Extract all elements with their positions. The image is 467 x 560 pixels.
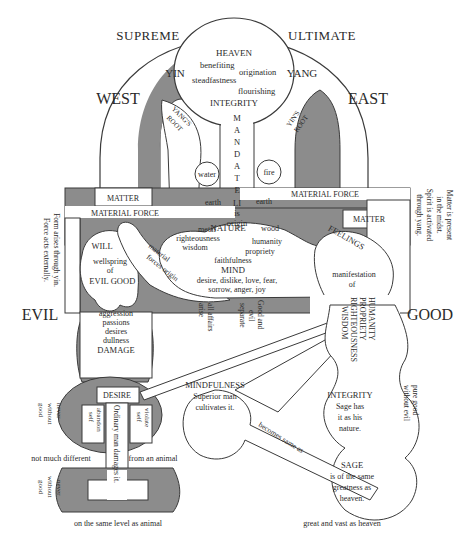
violate-1: violate	[143, 408, 151, 427]
svg-text:N: N	[234, 137, 240, 147]
will-good: GOOD	[111, 276, 136, 286]
from-an-animal: from an animal	[129, 454, 179, 463]
side-note-left-2: Force acts externally.	[42, 218, 51, 282]
will-title: WILL	[91, 241, 112, 251]
svg-text:earth: earth	[205, 198, 221, 207]
great-and-vast: great and vast as heaven	[303, 519, 381, 528]
never-2c: good	[37, 480, 45, 495]
svg-text:earth: earth	[256, 197, 272, 206]
nature-faithfulness: faithfulness	[214, 256, 251, 265]
never-1b: without	[46, 403, 54, 424]
svg-text:water: water	[198, 170, 216, 179]
mind-emotions-2: sorrow, anger, joy	[208, 285, 265, 294]
svg-text:is: is	[234, 208, 240, 218]
svg-text:dullness: dullness	[103, 336, 129, 345]
side-note-right-4: through yang.	[415, 194, 424, 236]
integrity-title: INTEGRITY	[327, 390, 372, 400]
label-yang: YANG	[287, 67, 318, 79]
svg-text:D: D	[234, 149, 240, 159]
good-evil-1: Good and	[256, 300, 265, 330]
will-line2: of	[107, 266, 114, 275]
matter-left: MATTER	[107, 194, 140, 203]
material-force-left: MATERIAL FORCE	[91, 209, 159, 218]
svg-text:A: A	[234, 125, 241, 135]
heaven-steadfastness: steadfastness	[192, 75, 236, 85]
svg-text:wood: wood	[261, 224, 279, 233]
svg-text:PROPRIETY: PROPRIETY	[358, 297, 367, 341]
sage-line3: heaven.	[340, 494, 365, 503]
nature-righteousness: righteousness	[176, 234, 220, 243]
svg-text:A: A	[234, 161, 241, 171]
material-force-right: MATERIAL FORCE	[291, 190, 359, 199]
good-evil-3: separate	[238, 303, 247, 328]
mindfulness-title: MINDFULNESS	[185, 380, 245, 390]
label-west: WEST	[96, 90, 140, 107]
mindfulness-line1: Superior man	[193, 392, 236, 401]
integrity-line2: it as his	[338, 413, 362, 422]
heaven-origination: origination	[239, 67, 277, 77]
mind-emotions-1: desire, dislike, love, fear,	[197, 276, 277, 285]
label-evil: EVIL	[22, 306, 58, 323]
svg-text:T: T	[234, 173, 240, 183]
svg-text:M: M	[233, 113, 241, 123]
mindfulness-line2: cultivates it.	[195, 403, 234, 412]
desire-title: DESIRE	[103, 391, 131, 400]
svg-text:aggression: aggression	[99, 309, 133, 318]
sage-line1: is of the same	[330, 472, 375, 481]
svg-text:desires: desires	[105, 327, 127, 336]
neo-confucian-diagram: SUPREME ULTIMATE WEST EAST EVIL GOOD HEA…	[0, 0, 467, 560]
svg-text:fire: fire	[263, 168, 275, 177]
nature-wisdom: wisdom	[182, 243, 208, 252]
never-2b: without	[46, 476, 54, 497]
same-level-animal: on the same level as animal	[74, 519, 163, 528]
side-note-right-1: Matter is present	[445, 190, 454, 241]
violate-2: self	[135, 412, 143, 423]
will-line1: wellspring	[93, 257, 127, 266]
abandon-2: self	[87, 412, 95, 423]
svg-text:E: E	[234, 185, 239, 195]
label-yin: YIN	[165, 67, 185, 79]
never-1c: good	[37, 403, 45, 418]
all-affairs-2: arise	[197, 303, 206, 318]
heaven-title: HEAVEN	[216, 48, 252, 58]
svg-text:WISDOM: WISDOM	[340, 306, 349, 339]
feelings-manifestation: manifestation	[332, 270, 376, 279]
heaven-flourishing: flourishing	[238, 86, 276, 96]
heaven-integrity: INTEGRITY	[210, 98, 258, 108]
side-note-left-1: Form arises through yin.	[52, 213, 61, 287]
sage-title: SAGE	[341, 460, 363, 470]
nature-title: NATURE	[210, 223, 246, 233]
will-evil: EVIL	[89, 276, 108, 286]
good-evil-2: evil	[247, 310, 256, 321]
label-good: GOOD	[407, 306, 453, 323]
svg-text:HUMANITY: HUMANITY	[367, 297, 376, 341]
side-note-right-2: in the midst.	[435, 196, 444, 233]
pure-good-1: pure good	[411, 385, 420, 415]
ordinary-man: Ordinary man damages it.	[112, 405, 121, 483]
integrity-line3: nature.	[339, 424, 361, 433]
svg-text:RIGHTEOUSNESS: RIGHTEOUSNESS	[349, 297, 358, 362]
label-supreme: SUPREME	[116, 28, 179, 43]
svg-text:DAMAGE: DAMAGE	[97, 345, 134, 355]
nature-humanity: humanity	[252, 237, 282, 246]
label-east: EAST	[348, 90, 388, 107]
svg-text:passions: passions	[102, 318, 129, 327]
never-2a: never	[55, 480, 63, 496]
feelings-of: of	[349, 280, 356, 289]
not-much-different: not much different	[31, 454, 91, 463]
matter-right: MATTER	[353, 215, 386, 224]
pure-good-2: without evil	[402, 385, 411, 421]
integrity-line1: Sage has	[336, 402, 364, 411]
svg-text:LI: LI	[233, 198, 241, 208]
all-affairs-1: all affairs	[206, 303, 215, 331]
side-note-right-3: Spirit is activated	[425, 189, 434, 242]
abandon-1: abandon	[95, 408, 103, 432]
label-ultimate: ULTIMATE	[288, 28, 356, 43]
mind-title: MIND	[221, 265, 245, 275]
sage-line2: greatness as	[333, 483, 371, 492]
heaven-benefiting: benefiting	[200, 60, 235, 70]
never-1a: never	[55, 403, 63, 419]
nature-propriety: propriety	[245, 247, 274, 256]
